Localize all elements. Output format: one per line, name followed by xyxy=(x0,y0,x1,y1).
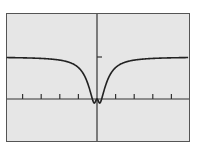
axes xyxy=(7,14,189,141)
function-plot xyxy=(0,0,207,152)
